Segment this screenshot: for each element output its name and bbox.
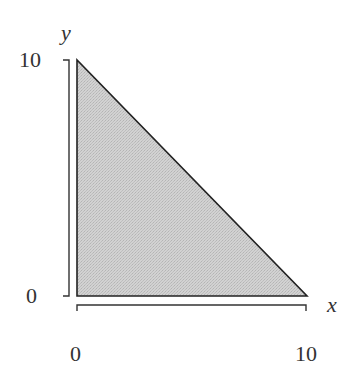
x-tick-label-min: 0 (70, 341, 81, 366)
y-axis-label: y (59, 20, 71, 45)
x-tick-label-max: 10 (295, 341, 317, 366)
y-tick-label-max: 10 (19, 47, 41, 72)
diagram-canvas: y x 10 0 0 10 (0, 0, 356, 389)
shaded-triangle-region (77, 60, 307, 296)
x-axis-label: x (326, 292, 337, 317)
x-axis-bracket (77, 305, 306, 311)
y-tick-label-min: 0 (26, 283, 37, 308)
y-axis-bracket (63, 60, 69, 296)
